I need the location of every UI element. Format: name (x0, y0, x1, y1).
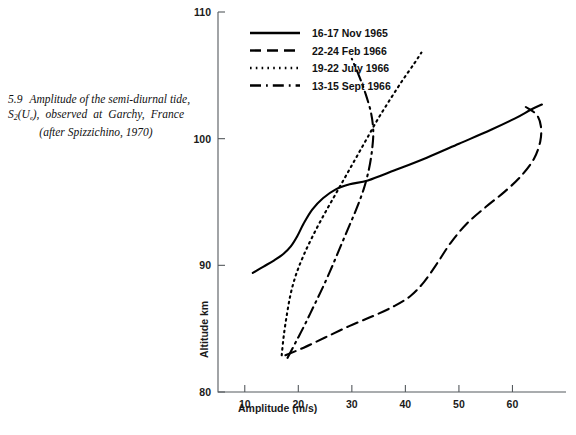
y-tick-label: 80 (199, 386, 211, 398)
curve-dashed (285, 107, 541, 355)
x-tick-label: 30 (346, 398, 358, 410)
plot-figure: 8090100110 102030405060 Amplitude (m/s) … (0, 0, 576, 435)
y-tick-label: 100 (193, 133, 211, 145)
x-tick-label: 50 (453, 398, 465, 410)
legend-label: 22-24 Feb 1966 (312, 45, 387, 57)
x-axis-ticks (245, 385, 513, 392)
curve-dash-dot (288, 59, 374, 358)
x-tick-label: 40 (400, 398, 412, 410)
y-tick-label: 110 (194, 6, 211, 18)
x-axis-title: Amplitude (m/s) (238, 402, 317, 414)
y-axis-ticks (218, 12, 225, 392)
y-tick-label: 90 (199, 259, 211, 271)
legend-label: 16-17 Nov 1965 (312, 27, 388, 39)
figure-page: 5.9Amplitude of the semi-diurnal tide, S… (0, 0, 576, 435)
x-tick-label: 60 (507, 398, 519, 410)
y-axis-title: Altitude km (198, 301, 210, 358)
legend-label: 19-22 July 1966 (312, 62, 389, 74)
curve-solid (253, 104, 542, 272)
axis-frame (218, 12, 566, 392)
plot-svg: 8090100110 102030405060 Amplitude (m/s) … (0, 0, 576, 435)
legend-label: 13-15 Sept 1966 (312, 80, 391, 92)
plot-legend: 16-17 Nov 196522-24 Feb 196619-22 July 1… (250, 27, 391, 92)
curve-dotted (282, 53, 422, 356)
data-curves (253, 53, 542, 358)
